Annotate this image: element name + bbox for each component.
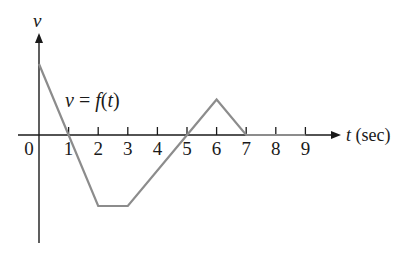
x-tick-label: 9 [301, 138, 311, 159]
x-axis-arrow-icon [331, 131, 341, 139]
curve-label: v = f(t) [65, 89, 120, 112]
x-tick-label: 3 [123, 138, 133, 159]
x-tick-label: 0 [24, 138, 34, 159]
x-tick-label: 4 [153, 138, 163, 159]
x-tick-label: 5 [182, 138, 192, 159]
y-axis-arrow-icon [35, 33, 43, 43]
y-axis-label: v [33, 10, 42, 31]
x-tick-label: 7 [241, 138, 251, 159]
x-tick-label: 8 [271, 138, 281, 159]
x-tick-label: 2 [93, 138, 103, 159]
x-tick-label: 6 [212, 138, 222, 159]
x-tick-labels: 0123456789 [24, 138, 310, 159]
velocity-chart: 0123456789 v t (sec) v = f(t) [0, 0, 417, 254]
x-axis-label: t (sec) [346, 125, 391, 146]
